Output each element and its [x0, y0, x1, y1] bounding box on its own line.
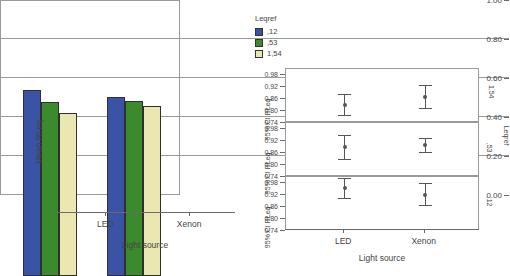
error-bar-cap-lower [338, 198, 351, 199]
error-bar-cap-upper [338, 135, 351, 136]
ci-panel-3-plot-area [285, 176, 479, 230]
ci-strip-title: Leqref [503, 126, 510, 146]
ci-y-tick [280, 110, 285, 111]
error-bar-mean-point [423, 143, 427, 147]
ci-y-tick [280, 230, 285, 231]
error-bar-cap-upper [338, 178, 351, 179]
ci-panel-2-plot-area [285, 122, 479, 176]
error-bar-cap-upper [419, 183, 432, 184]
error-bar-led-panel-2 [344, 123, 345, 177]
ci-panel-2-strip-label: ,53 [486, 143, 493, 153]
ci-panel-3-y-axis: 0.740.800.860.920.98 [276, 176, 285, 230]
error-bar-cap-upper [338, 94, 351, 95]
error-bar-cap-lower [419, 205, 432, 206]
error-bar-led-panel-3 [344, 177, 345, 231]
ci-y-tick [280, 140, 285, 141]
ci-y-tick [280, 86, 285, 87]
ci-y-tick-label: 0.92 [264, 191, 278, 198]
error-bar-cap-lower [419, 152, 432, 153]
error-bar-mean-point [423, 193, 427, 197]
error-bar-xenon-panel-3 [425, 177, 426, 231]
error-bar-mean-point [423, 95, 427, 99]
ci-panel-1-y-axis: 0.740.800.860.920.98 [276, 68, 285, 122]
ci-y-tick [280, 74, 285, 75]
ci-panel-1-y-axis-title: 95% CI RLeq [264, 99, 271, 141]
ci-y-tick [280, 218, 285, 219]
ci-y-tick-label: 0.98 [264, 71, 278, 78]
ci-y-tick [280, 98, 285, 99]
ci-y-tick [280, 206, 285, 207]
ci-y-tick [280, 128, 285, 129]
ci-y-tick [280, 152, 285, 153]
error-bar-cap-lower [338, 115, 351, 116]
ci-panel-2-y-axis: 0.740.800.860.920.98 [276, 122, 285, 176]
error-bar-cap-lower [338, 159, 351, 160]
ci-panel-1-plot-area [285, 68, 479, 122]
error-bar-mean-point [343, 103, 347, 107]
ci-y-tick [280, 194, 285, 195]
error-bar-cap-upper [419, 138, 432, 139]
error-bar-led-panel-1 [344, 69, 345, 123]
ci-y-tick-label: 0.98 [264, 125, 278, 132]
error-bar-mean-point [343, 186, 347, 190]
ci-y-tick-label: 0.92 [264, 137, 278, 144]
ci-panel-3-y-axis-title: 95% CI RLeq [264, 207, 271, 249]
error-bar-mean-point [343, 145, 347, 149]
ci-chart-x-axis-line [285, 229, 479, 230]
ci-y-tick-label: 0.98 [264, 179, 278, 186]
ci-panel-3-strip-label: ,12 [486, 197, 493, 207]
ci-y-tick-label: 0.92 [264, 83, 278, 90]
error-bar-xenon-panel-1 [425, 69, 426, 123]
ci-panel-2-y-axis-title: 95% CI RLeq [264, 153, 271, 195]
error-bar-cap-lower [419, 108, 432, 109]
ci-chart-x-axis-title: Light source [359, 253, 405, 263]
ci-y-tick [280, 164, 285, 165]
error-bar-cap-upper [419, 85, 432, 86]
ci-y-tick [280, 182, 285, 183]
error-bar-xenon-panel-2 [425, 123, 426, 177]
ci-panel-1-strip-label: 1,54 [488, 85, 495, 99]
